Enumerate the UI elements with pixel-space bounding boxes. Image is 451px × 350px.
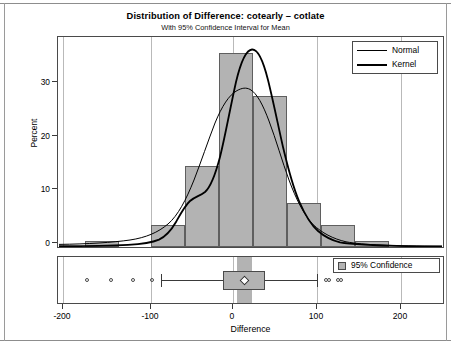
x-axis-label: Difference	[57, 324, 444, 334]
y-tick-label-30: 30	[26, 77, 50, 87]
x-tick-label--100: -100	[130, 311, 170, 321]
page-left-edge	[4, 3, 5, 341]
x-tick-mark--200	[62, 304, 63, 309]
outlier-point	[85, 278, 89, 282]
y-tick-label-10: 10	[26, 184, 50, 194]
legend-item-normal: Normal	[357, 44, 419, 57]
legend-label-normal: Normal	[392, 46, 419, 54]
line-swatch-icon	[357, 64, 387, 66]
kernel-curve-path	[59, 49, 442, 246]
y-tick-label-20: 20	[26, 131, 50, 141]
y-tick-label-0: 0	[26, 238, 50, 248]
line-swatch-icon	[357, 50, 387, 51]
x-tick-label-100: 100	[296, 311, 336, 321]
outlier-point	[150, 278, 154, 282]
outlier-point	[339, 278, 343, 282]
chart-title: Distribution of Difference: cotearly – c…	[0, 11, 451, 21]
outlier-point	[109, 278, 113, 282]
outlier-point	[327, 278, 331, 282]
gridline-x--200	[63, 257, 64, 303]
x-tick-label-200: 200	[380, 311, 420, 321]
x-tick-label--200: -200	[42, 311, 82, 321]
outlier-point	[131, 278, 135, 282]
whisker-cap-low	[161, 274, 162, 287]
confidence-swatch-icon	[338, 262, 346, 270]
x-tick-label-0: 0	[212, 311, 252, 321]
figure-page: Distribution of Difference: cotearly – c…	[0, 0, 451, 350]
whisker-cap-high	[317, 274, 318, 287]
x-tick-mark--100	[150, 304, 151, 309]
page-top-rule	[0, 3, 451, 4]
curves-legend: Normal Kernel	[352, 41, 438, 74]
normal-curve-path	[59, 88, 442, 246]
page-bottom-rule	[0, 340, 451, 341]
legend-label-confidence: 95% Confidence	[351, 261, 412, 269]
legend-item-kernel: Kernel	[357, 58, 416, 71]
x-tick-mark-200	[400, 304, 401, 309]
legend-label-kernel: Kernel	[392, 60, 416, 68]
boxplot-legend: 95% Confidence	[333, 258, 440, 273]
page-right-edge	[446, 3, 447, 341]
chart-subtitle: With 95% Confidence Interval for Mean	[0, 23, 451, 32]
x-tick-mark-100	[316, 304, 317, 309]
x-tick-mark-0	[232, 304, 233, 309]
